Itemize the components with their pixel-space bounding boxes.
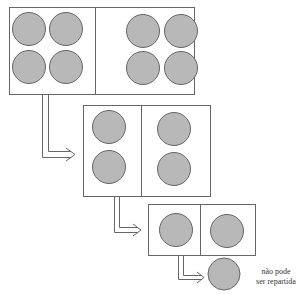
stage-3-circles [160, 214, 244, 248]
final-circle [208, 258, 240, 290]
arrow-1-icon [43, 95, 76, 162]
arrow-3-icon [179, 256, 205, 284]
note-line-2: ser repartida [250, 277, 302, 287]
halving-diagram [0, 0, 303, 299]
note-line-1: não pode [250, 267, 302, 277]
cannot-divide-note: não pode ser repartida [250, 267, 302, 287]
stage-1-circles [13, 13, 198, 85]
arrow-2-icon [115, 197, 142, 237]
